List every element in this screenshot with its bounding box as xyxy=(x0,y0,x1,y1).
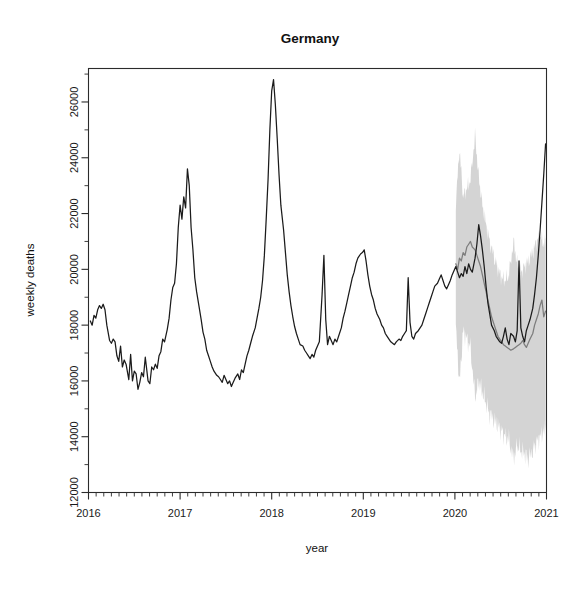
y-axis-title: weekly deaths xyxy=(24,243,36,317)
x-tick-label: 2018 xyxy=(259,507,283,519)
y-tick-label: 22000 xyxy=(68,198,80,229)
chart-container: Germany weekly deaths year 2016201720182… xyxy=(0,0,579,589)
weekly-deaths-time-series-chart: Germany weekly deaths year 2016201720182… xyxy=(0,0,579,589)
x-tick-label: 2021 xyxy=(534,507,558,519)
y-tick-label: 12000 xyxy=(68,477,80,508)
x-axis-title: year xyxy=(306,542,329,554)
chart-title: Germany xyxy=(281,31,340,46)
x-tick-label: 2019 xyxy=(351,507,375,519)
y-tick-label: 24000 xyxy=(68,142,80,173)
y-tick-label: 18000 xyxy=(68,310,80,341)
y-tick-label: 16000 xyxy=(68,366,80,397)
y-tick-label: 26000 xyxy=(68,87,80,118)
y-tick-label: 14000 xyxy=(68,421,80,452)
x-tick-label: 2017 xyxy=(168,507,192,519)
y-tick-label: 20000 xyxy=(68,254,80,285)
x-tick-label: 2020 xyxy=(443,507,467,519)
